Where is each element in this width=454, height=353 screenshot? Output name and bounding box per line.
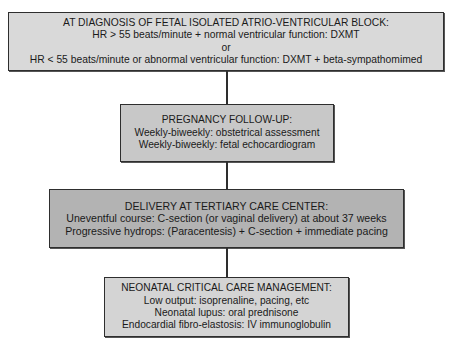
neonatal-care-box: NEONATAL CRITICAL CARE MANAGEMENT: Low o… [104,277,349,337]
delivery-title: DELIVERY AT TERTIARY CARE CENTER: [50,200,403,212]
follow-up-title: PREGNANCY FOLLOW-UP: [121,114,333,126]
connector-followup-to-delivery [226,162,228,189]
delivery-line-1: Uneventful course: C-section (or vaginal… [50,212,403,224]
neonatal-line-1: Low output: isoprenaline, pacing, etc [105,295,348,307]
diagnosis-line-2: HR < 55 beats/minute or abnormal ventric… [9,54,443,66]
follow-up-line-2: Weekly-biweekly: fetal echocardiogram [121,139,333,151]
diagnosis-box: AT DIAGNOSIS OF FETAL ISOLATED ATRIO-VEN… [8,12,444,71]
delivery-line-2: Progressive hydrops: (Paracentesis) + C-… [50,225,403,237]
connector-delivery-to-neonatal [226,248,228,277]
diagnosis-line-or: or [9,42,443,54]
diagnosis-title: AT DIAGNOSIS OF FETAL ISOLATED ATRIO-VEN… [9,17,443,29]
neonatal-title: NEONATAL CRITICAL CARE MANAGEMENT: [105,282,348,294]
connector-diagnosis-to-followup [226,71,228,104]
follow-up-line-1: Weekly-biweekly: obstetrical assessment [121,127,333,139]
diagnosis-line-1: HR > 55 beats/minute + normal ventricula… [9,29,443,41]
neonatal-line-2: Neonatal lupus: oral prednisone [105,307,348,319]
neonatal-line-3: Endocardial fibro-elastosis: IV immunogl… [105,319,348,331]
delivery-box: DELIVERY AT TERTIARY CARE CENTER: Uneven… [49,189,404,248]
pregnancy-follow-up-box: PREGNANCY FOLLOW-UP: Weekly-biweekly: ob… [120,104,334,162]
